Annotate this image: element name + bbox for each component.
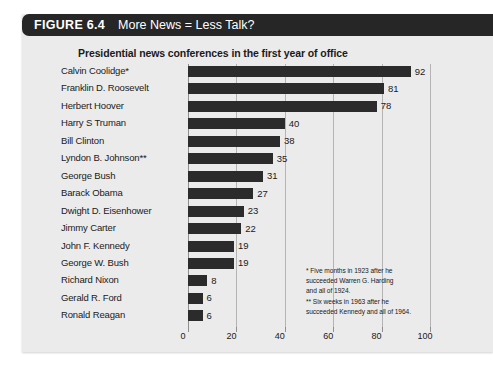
bar-row: Dwight D. Eisenhower23 xyxy=(0,204,493,221)
bar-row: Herbert Hoover78 xyxy=(0,99,493,116)
x-tick-mark-40 xyxy=(285,327,286,332)
bar-value-label: 27 xyxy=(257,188,268,199)
bar-row: Lyndon B. Johnson**35 xyxy=(0,151,493,168)
bar xyxy=(188,118,285,129)
bar xyxy=(188,66,411,77)
bar-row: Barack Obama27 xyxy=(0,186,493,203)
bar-value-label: 6 xyxy=(207,310,212,321)
footnote-line-2: succeeded Warren G. Harding xyxy=(306,276,436,286)
bar-category-label: Bill Clinton xyxy=(61,135,183,146)
figure-title-banner: FIGURE 6.4 More News = Less Talk? xyxy=(22,14,493,36)
bar-row: Harry S Truman40 xyxy=(0,116,493,133)
bar-category-label: George W. Bush xyxy=(61,257,183,268)
bar-value-label: 81 xyxy=(388,83,399,94)
bar-category-label: Ronald Reagan xyxy=(61,309,183,320)
bar-value-label: 38 xyxy=(284,135,295,146)
bar-value-label: 8 xyxy=(211,275,216,286)
bar xyxy=(188,136,280,147)
x-tick-label-40: 40 xyxy=(275,331,285,341)
bar-value-label: 31 xyxy=(267,170,278,181)
chart-subtitle: Presidential news conferences in the fir… xyxy=(78,47,348,59)
bar-row: Bill Clinton38 xyxy=(0,134,493,151)
bar xyxy=(188,153,273,164)
figure-root: FIGURE 6.4 More News = Less Talk? Presid… xyxy=(0,0,493,382)
x-tick-label-0: 0 xyxy=(180,331,185,341)
bar-category-label: Barack Obama xyxy=(61,187,183,198)
figure-title: More News = Less Talk? xyxy=(118,18,254,32)
x-tick-label-100: 100 xyxy=(417,331,432,341)
bar xyxy=(188,241,234,252)
bar xyxy=(188,258,234,269)
bar xyxy=(188,275,207,286)
bar-category-label: Herbert Hoover xyxy=(61,100,183,111)
bar-row: Calvin Coolidge*92 xyxy=(0,64,493,81)
bar-row: Franklin D. Roosevelt81 xyxy=(0,81,493,98)
footnote-line-3: and all of 1924. xyxy=(306,286,436,296)
bar xyxy=(188,101,377,112)
bar-value-label: 78 xyxy=(381,100,392,111)
bar xyxy=(188,83,384,94)
x-tick-label-80: 80 xyxy=(372,331,382,341)
bar xyxy=(188,188,253,199)
bar-value-label: 92 xyxy=(415,66,426,77)
footnote-line-5: succeeded Kennedy and all of 1964. xyxy=(306,307,436,317)
bar-category-label: Gerald R. Ford xyxy=(61,292,183,303)
bar-category-label: Calvin Coolidge* xyxy=(61,65,183,76)
bar-category-label: Richard Nixon xyxy=(61,274,183,285)
x-tick-label-20: 20 xyxy=(226,331,236,341)
x-tick-mark-0 xyxy=(188,327,189,332)
bar-value-label: 19 xyxy=(238,240,249,251)
bar-category-label: George Bush xyxy=(61,170,183,181)
bar-value-label: 19 xyxy=(238,257,249,268)
x-tick-mark-20 xyxy=(236,327,237,332)
bar-row: George Bush31 xyxy=(0,169,493,186)
bar-value-label: 22 xyxy=(245,223,256,234)
figure-number: FIGURE 6.4 xyxy=(34,18,105,32)
x-axis: 020406080100 xyxy=(188,327,430,343)
bar-value-label: 40 xyxy=(289,118,300,129)
bar-row: John F. Kennedy19 xyxy=(0,239,493,256)
bar xyxy=(188,206,244,217)
x-tick-mark-80 xyxy=(382,327,383,332)
bar-value-label: 6 xyxy=(207,292,212,303)
bar xyxy=(188,223,241,234)
bar-category-label: John F. Kennedy xyxy=(61,240,183,251)
bar-category-label: Franklin D. Roosevelt xyxy=(61,82,183,93)
x-tick-mark-60 xyxy=(333,327,334,332)
bar xyxy=(188,293,203,304)
bar-value-label: 35 xyxy=(277,153,288,164)
footnote-line-1: * Five months in 1923 after he xyxy=(306,266,436,276)
bar xyxy=(188,171,263,182)
footnote-line-4: ** Six weeks in 1963 after he xyxy=(306,297,436,307)
bar-category-label: Dwight D. Eisenhower xyxy=(61,205,183,216)
bar xyxy=(188,310,203,321)
bar-category-label: Jimmy Carter xyxy=(61,222,183,233)
x-tick-label-60: 60 xyxy=(323,331,333,341)
bar-row: Jimmy Carter22 xyxy=(0,221,493,238)
chart-footnote: * Five months in 1923 after he succeeded… xyxy=(306,266,436,317)
bar-value-label: 23 xyxy=(248,205,259,216)
bar-category-label: Lyndon B. Johnson** xyxy=(61,152,183,163)
bar-category-label: Harry S Truman xyxy=(61,117,183,128)
